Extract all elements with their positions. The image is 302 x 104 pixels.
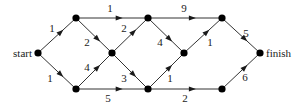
- edge-weight-label: 4: [157, 36, 163, 48]
- edge-weight-label: 2: [121, 22, 127, 34]
- arrowhead-icon: [189, 15, 196, 20]
- edge-weight-label: 4: [84, 61, 90, 73]
- edge-e-f: [148, 53, 184, 89]
- node-label-finish: finish: [266, 47, 292, 59]
- edge-weight-label: 5: [243, 27, 249, 39]
- node-finish: [256, 49, 263, 56]
- arrowhead-icon: [189, 86, 196, 91]
- node-f: [180, 49, 187, 56]
- edge-weight-label: 2: [84, 36, 90, 48]
- node-start: [34, 49, 41, 56]
- node-a: [72, 14, 79, 21]
- edge-b-c: [76, 53, 112, 89]
- edge-weight-label: 1: [207, 36, 213, 48]
- node-label-start: start: [13, 47, 32, 59]
- edge-weight-label: 3: [121, 72, 127, 84]
- edge-start-b: [38, 53, 76, 89]
- edge-d-f: [148, 18, 184, 53]
- node-d: [144, 14, 151, 21]
- node-h: [218, 85, 225, 92]
- edge-weight-label: 1: [167, 72, 173, 84]
- edge-start-a: [38, 18, 76, 53]
- edge-h-finish: [222, 53, 260, 89]
- arrowhead-icon: [116, 15, 123, 20]
- edge-g-finish: [222, 18, 260, 53]
- edge-weight-label: 5: [105, 92, 111, 104]
- weighted-graph-diagram: 111245239412156startfinish: [0, 0, 302, 104]
- edge-weight-label: 9: [181, 2, 187, 14]
- edge-weight-label: 1: [107, 2, 113, 14]
- edge-c-d: [112, 18, 148, 53]
- edge-layer: [38, 18, 260, 89]
- node-b: [72, 85, 79, 92]
- node-layer: [34, 14, 263, 92]
- edge-weight-label: 2: [182, 92, 188, 104]
- edge-weight-label: 1: [47, 72, 53, 84]
- edge-weight-label: 6: [242, 71, 248, 83]
- edge-weight-label: 1: [49, 22, 55, 34]
- edge-f-g: [184, 18, 222, 53]
- arrowhead-icon: [116, 86, 123, 91]
- node-e: [144, 85, 151, 92]
- node-g: [218, 14, 225, 21]
- edge-c-e: [112, 53, 148, 89]
- edge-a-c: [76, 18, 112, 53]
- node-c: [108, 49, 115, 56]
